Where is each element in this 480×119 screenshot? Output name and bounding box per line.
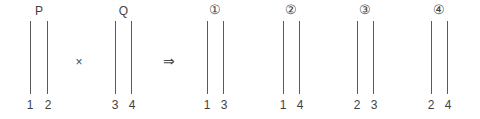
rod-numbers-q: 3 4 [115, 98, 132, 114]
rod-group-result-1: ① 1 3 [207, 0, 224, 119]
rod-group-result-2: ② 1 4 [283, 0, 300, 119]
group-label-circled-4: ④ [431, 3, 448, 17]
rod-number-right: 2 [43, 98, 53, 112]
rod-left [115, 21, 116, 94]
rod-right [47, 21, 48, 94]
rod-pair-result-4 [431, 21, 448, 94]
rod-number-left: 1 [202, 98, 212, 112]
group-label-circled-1: ① [207, 3, 224, 17]
group-label-p: P [30, 4, 48, 18]
rod-left [431, 21, 432, 94]
rod-pair-p [30, 21, 48, 94]
rod-group-p: P 1 2 [30, 0, 48, 119]
rod-left [357, 21, 358, 94]
rod-number-left: 2 [426, 98, 436, 112]
rod-right [299, 21, 300, 94]
rod-number-right: 4 [127, 98, 137, 112]
rod-pair-q [115, 21, 132, 94]
rod-right [447, 21, 448, 94]
rod-right [373, 21, 374, 94]
rod-number-right: 3 [369, 98, 379, 112]
rod-numbers-p: 1 2 [30, 98, 48, 114]
rod-numbers-result-3: 2 3 [357, 98, 374, 114]
group-label-q: Q [115, 4, 132, 18]
rod-pair-result-3 [357, 21, 374, 94]
implies-operator: ⇒ [159, 54, 179, 68]
rod-number-right: 3 [219, 98, 229, 112]
rod-numbers-result-4: 2 4 [431, 98, 448, 114]
rod-group-q: Q 3 4 [115, 0, 132, 119]
group-label-circled-3: ③ [357, 3, 374, 17]
rod-right [223, 21, 224, 94]
rod-left [283, 21, 284, 94]
rod-number-left: 3 [110, 98, 120, 112]
rod-right [131, 21, 132, 94]
rod-pair-result-2 [283, 21, 300, 94]
rod-group-result-3: ③ 2 3 [357, 0, 374, 119]
rod-left [30, 21, 31, 94]
rod-group-result-4: ④ 2 4 [431, 0, 448, 119]
rod-number-left: 1 [278, 98, 288, 112]
group-label-circled-2: ② [283, 3, 300, 17]
rod-number-left: 2 [352, 98, 362, 112]
rod-number-right: 4 [295, 98, 305, 112]
rod-numbers-result-2: 1 4 [283, 98, 300, 114]
rod-number-left: 1 [25, 98, 35, 112]
rod-numbers-result-1: 1 3 [207, 98, 224, 114]
multiply-operator: × [71, 55, 87, 69]
rod-number-right: 4 [443, 98, 453, 112]
rod-pair-result-1 [207, 21, 224, 94]
rod-left [207, 21, 208, 94]
diagram-canvas: P 1 2 × Q 3 4 ⇒ ① 1 3 [0, 0, 480, 119]
